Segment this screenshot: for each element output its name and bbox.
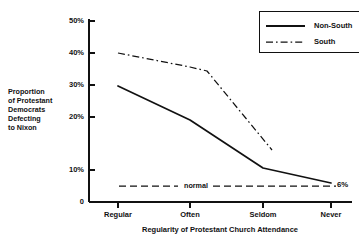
series-line-south xyxy=(118,53,272,150)
x-tick-label-never: Never xyxy=(303,211,359,220)
y-tick-label-50: 50% xyxy=(58,17,84,26)
x-axis-ticks xyxy=(118,202,331,208)
x-axis-title: Regularity of Protestant Church Attendan… xyxy=(80,226,359,235)
end-value-label-6-percent: 6% xyxy=(337,180,348,189)
y-axis-ticks xyxy=(89,21,95,170)
x-tick-label-often: Often xyxy=(162,211,218,220)
series-line-non-south xyxy=(118,86,331,183)
y-tick-label-40: 40% xyxy=(58,49,84,58)
y-axis-title-line-5: to Nixon xyxy=(8,124,66,132)
legend-label-south: South xyxy=(314,38,335,47)
y-tick-label-10: 10% xyxy=(58,166,84,175)
normal-line-label: normal xyxy=(179,182,213,190)
legend-frame xyxy=(259,11,359,52)
chart-container: 50% 40% 30% 20% 10% 0 Proportion of Prot… xyxy=(0,0,359,239)
x-tick-label-regular: Regular xyxy=(90,211,146,220)
legend-label-non-south: Non-South xyxy=(314,22,352,31)
x-tick-label-seldom: Seldom xyxy=(235,211,291,220)
y-tick-label-0: 0 xyxy=(58,198,84,207)
